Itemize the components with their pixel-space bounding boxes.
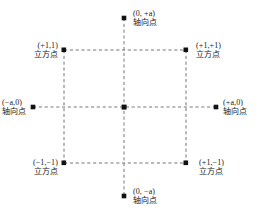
cube-point-top-right-label: (+1,+1) 立方点 xyxy=(196,41,221,60)
cube-point-top-right-marker xyxy=(184,48,189,53)
axial-point-left-kind: 轴向点 xyxy=(2,107,26,116)
cube-point-bottom-left-kind: 立方点 xyxy=(16,167,58,176)
ccd-design-figure: (0, +a) 轴向点 (0, −a) 轴向点 (−a,0) 轴向点 (+a,0… xyxy=(0,0,262,215)
axial-point-bottom-label: (0, −a) 轴向点 xyxy=(133,187,157,206)
cube-point-top-right-kind: 立方点 xyxy=(196,50,221,59)
axial-point-right-kind: 轴向点 xyxy=(223,107,247,116)
axial-point-right-marker xyxy=(214,105,219,110)
axial-point-bottom-marker xyxy=(122,194,127,199)
axial-point-bottom-kind: 轴向点 xyxy=(133,196,157,205)
cube-point-bottom-right-kind: 立方点 xyxy=(199,167,224,176)
cube-point-top-left-marker xyxy=(62,48,67,53)
cube-point-bottom-left-label: (−1,−1) 立方点 xyxy=(16,158,58,177)
axial-point-left-label: (−a,0) 轴向点 xyxy=(2,98,26,117)
axial-point-top-label: (0, +a) 轴向点 xyxy=(133,9,157,28)
axial-point-left-marker xyxy=(31,105,36,110)
cube-point-bottom-left-marker xyxy=(62,161,67,166)
cube-point-bottom-right-marker xyxy=(184,161,189,166)
axial-point-top-kind: 轴向点 xyxy=(133,18,157,27)
cube-point-top-left-label: (+1,1) 立方点 xyxy=(22,41,58,60)
cube-point-bottom-right-label: (+1,−1) 立方点 xyxy=(199,158,224,177)
center-point-marker xyxy=(122,105,127,110)
axial-point-right-label: (+a,0) 轴向点 xyxy=(223,98,247,117)
axial-point-top-marker xyxy=(122,16,127,21)
cube-point-top-left-kind: 立方点 xyxy=(22,50,58,59)
